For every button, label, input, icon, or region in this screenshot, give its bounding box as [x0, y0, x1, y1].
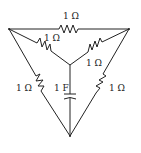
- capacitor-center: [64, 65, 76, 136]
- label-upper-right-inner: 1 Ω: [86, 58, 102, 68]
- label-upper-left-inner: 1 Ω: [44, 33, 60, 43]
- label-right: 1 Ω: [109, 83, 125, 93]
- label-left: 1 Ω: [16, 83, 32, 93]
- label-top: 1 Ω: [63, 11, 79, 21]
- resistor-top: [9, 25, 129, 33]
- node-a: [8, 28, 10, 30]
- circuit-diagram: 1 Ω 1 Ω 1 Ω 1 Ω 1 Ω 1 F: [0, 0, 141, 153]
- node-c: [69, 135, 71, 137]
- node-b: [128, 28, 130, 30]
- label-capacitor: 1 F: [54, 83, 69, 93]
- resistor-left-inner: [9, 29, 70, 65]
